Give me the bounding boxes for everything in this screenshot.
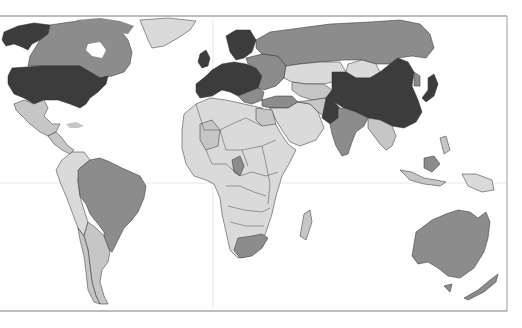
- map-canvas: [0, 0, 522, 328]
- world-map: [0, 0, 522, 328]
